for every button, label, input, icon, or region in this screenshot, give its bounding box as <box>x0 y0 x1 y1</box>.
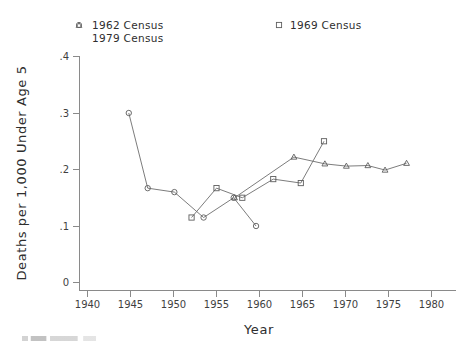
series-layer <box>126 110 409 228</box>
y-axis-ticklabels: .4 .3 .2 .1 0 <box>59 51 69 288</box>
y-axis-ticks <box>73 57 79 283</box>
series-1979-census <box>232 154 410 200</box>
chart-svg: 1962 Census 1979 Census 1969 Census .4 .… <box>0 0 463 346</box>
x-axis: 1940 1945 1950 1955 1960 1965 1970 1975 … <box>75 291 456 338</box>
y-axis: .4 .3 .2 .1 0 Deaths per 1,000 Under Age… <box>14 51 80 290</box>
y-ticklabel-0.4: .4 <box>59 51 69 62</box>
series-1962-census <box>126 110 259 228</box>
legend-square-marker <box>276 22 281 27</box>
legend-label-1962: 1962 Census <box>92 19 163 31</box>
x-ticklabel-1955: 1955 <box>204 299 229 310</box>
series-line-2 <box>235 157 407 198</box>
x-ticklabel-1975: 1975 <box>376 299 401 310</box>
y-ticklabel-0: 0 <box>63 277 69 288</box>
y-axis-title: Deaths per 1,000 Under Age 5 <box>14 65 29 280</box>
x-axis-title: Year <box>243 322 274 337</box>
x-ticklabel-1970: 1970 <box>333 299 358 310</box>
chart-legend: 1962 Census 1979 Census 1969 Census <box>76 19 361 44</box>
x-ticklabel-1960: 1960 <box>247 299 272 310</box>
x-ticklabel-1945: 1945 <box>118 299 143 310</box>
x-ticklabel-1980: 1980 <box>419 299 444 310</box>
series-line-1 <box>192 141 324 217</box>
x-ticklabel-1950: 1950 <box>161 299 186 310</box>
series-line-0 <box>129 113 256 226</box>
y-ticklabel-0.3: .3 <box>59 108 69 119</box>
caption-artifact <box>22 336 114 341</box>
x-axis-ticks <box>88 291 432 297</box>
y-ticklabel-0.1: .1 <box>59 221 69 232</box>
y-ticklabel-0.2: .2 <box>59 164 69 175</box>
legend-label-1969: 1969 Census <box>290 19 361 31</box>
datapoint-triangle <box>404 160 410 165</box>
legend-label-1979: 1979 Census <box>92 32 163 44</box>
x-axis-ticklabels: 1940 1945 1950 1955 1960 1965 1970 1975 … <box>75 299 444 310</box>
figure-container: 1962 Census 1979 Census 1969 Census .4 .… <box>0 0 463 346</box>
x-ticklabel-1940: 1940 <box>75 299 100 310</box>
x-ticklabel-1965: 1965 <box>290 299 315 310</box>
series-1969-census <box>189 139 327 220</box>
